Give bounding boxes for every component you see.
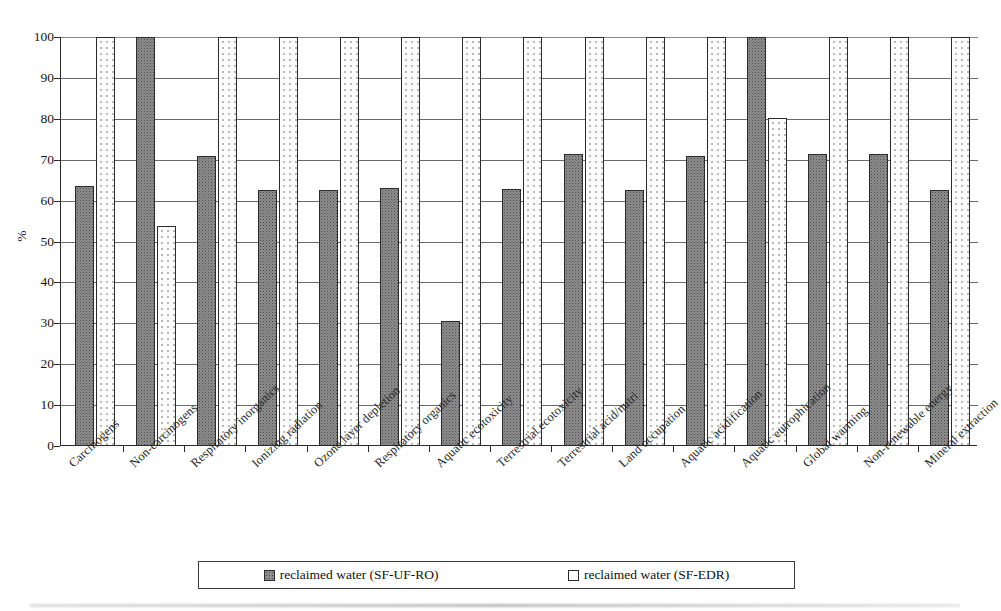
- page-artifact: [30, 604, 960, 607]
- legend-item-sf-uf-ro[interactable]: reclaimed water (SF-UF-RO): [264, 567, 439, 583]
- y-tick-mark: [54, 160, 60, 161]
- legend-item-sf-edr[interactable]: reclaimed water (SF-EDR): [568, 567, 729, 583]
- y-tick-mark: [54, 405, 60, 406]
- y-tick-mark: [54, 282, 60, 283]
- legend-swatch-dark-icon: [264, 570, 275, 581]
- x-tick-label: Global warming: [800, 403, 871, 471]
- legend-label-sf-uf-ro: reclaimed water (SF-UF-RO): [280, 567, 439, 583]
- y-tick-mark: [54, 201, 60, 202]
- y-tick-mark: [54, 37, 60, 38]
- y-tick-mark: [54, 446, 60, 447]
- x-tick-label: Carcinogens: [66, 417, 123, 471]
- legend-label-sf-edr: reclaimed water (SF-EDR): [584, 567, 729, 583]
- y-tick-mark: [54, 78, 60, 79]
- y-tick-mark: [54, 364, 60, 365]
- y-tick-mark: [54, 119, 60, 120]
- y-tick-mark: [54, 323, 60, 324]
- y-tick-mark: [54, 242, 60, 243]
- legend-swatch-light-icon: [568, 570, 579, 581]
- legend: reclaimed water (SF-UF-RO) reclaimed wat…: [198, 561, 795, 589]
